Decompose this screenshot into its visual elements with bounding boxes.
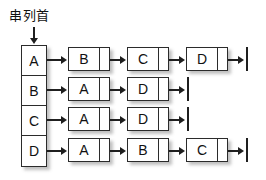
row-3-node-2-data[interactable]: C xyxy=(186,138,218,162)
row-0-link-0-arrowhead xyxy=(120,56,126,64)
row-3-head-arrowhead xyxy=(61,147,67,155)
row-2-node-0-data[interactable]: A xyxy=(68,107,100,131)
row-3-null-terminator xyxy=(246,138,248,162)
row-3-link-1-arrowhead xyxy=(179,147,185,155)
row-0-node-2-data[interactable]: D xyxy=(186,47,218,71)
row-2-node-1-label: D xyxy=(128,112,158,126)
head-pointer-arrowhead xyxy=(30,38,38,44)
row-2-node-0-label: A xyxy=(69,112,99,126)
row-0-null-terminator xyxy=(246,47,248,71)
row-0-node-2-label: D xyxy=(187,52,217,66)
row-3-node-1-pointer[interactable] xyxy=(158,138,169,162)
row-2-link-0-arrowhead xyxy=(120,116,126,124)
array-cell-2[interactable]: C xyxy=(21,105,47,136)
array-cell-1[interactable]: B xyxy=(21,75,47,106)
array-cell-2-label: C xyxy=(22,114,46,128)
row-1-head-arrowhead xyxy=(61,86,67,94)
row-1-node-1-data[interactable]: D xyxy=(127,77,159,101)
array-cell-0-label: A xyxy=(22,54,46,68)
row-0-link-2-arrowhead xyxy=(238,56,244,64)
row-0-link-1-arrowhead xyxy=(179,56,185,64)
row-3-node-0-pointer[interactable] xyxy=(99,138,110,162)
row-0-head-arrowhead xyxy=(61,56,67,64)
row-1-link-1-arrowhead xyxy=(179,86,185,94)
row-3-link-0-arrowhead xyxy=(120,147,126,155)
row-0-node-2-pointer[interactable] xyxy=(217,47,228,71)
row-0-node-0-data[interactable]: B xyxy=(68,47,100,71)
row-1-node-0-pointer[interactable] xyxy=(99,77,110,101)
row-0-node-1-pointer[interactable] xyxy=(158,47,169,71)
row-0-node-0-label: B xyxy=(69,52,99,66)
array-cell-3[interactable]: D xyxy=(21,135,47,167)
row-1-link-0-arrowhead xyxy=(120,86,126,94)
row-1-null-terminator xyxy=(187,77,189,101)
row-3-node-1-label: B xyxy=(128,143,158,157)
array-cell-3-label: D xyxy=(22,144,46,158)
linked-list-array-diagram: 串列首 A B C D B C D A xyxy=(0,0,266,180)
array-cell-1-label: B xyxy=(22,84,46,98)
row-2-head-arrowhead xyxy=(61,116,67,124)
list-head-label: 串列首 xyxy=(9,8,50,23)
row-1-node-1-label: D xyxy=(128,82,158,96)
row-3-node-0-label: A xyxy=(69,143,99,157)
row-1-node-0-label: A xyxy=(69,82,99,96)
row-2-node-1-pointer[interactable] xyxy=(158,107,169,131)
row-3-node-2-pointer[interactable] xyxy=(217,138,228,162)
row-1-node-1-pointer[interactable] xyxy=(158,77,169,101)
row-0-node-1-label: C xyxy=(128,52,158,66)
row-0-node-1-data[interactable]: C xyxy=(127,47,159,71)
row-0-node-0-pointer[interactable] xyxy=(99,47,110,71)
row-2-link-1-arrowhead xyxy=(179,116,185,124)
row-3-link-2-arrowhead xyxy=(238,147,244,155)
row-2-null-terminator xyxy=(187,107,189,131)
row-3-node-0-data[interactable]: A xyxy=(68,138,100,162)
row-2-node-1-data[interactable]: D xyxy=(127,107,159,131)
row-2-node-0-pointer[interactable] xyxy=(99,107,110,131)
array-cell-0[interactable]: A xyxy=(21,45,47,76)
row-1-node-0-data[interactable]: A xyxy=(68,77,100,101)
row-3-node-1-data[interactable]: B xyxy=(127,138,159,162)
row-3-node-2-label: C xyxy=(187,143,217,157)
